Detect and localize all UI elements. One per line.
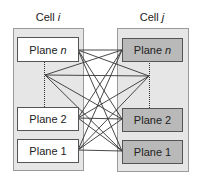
- plane-index: n: [61, 44, 67, 56]
- plane-label: Plane: [29, 44, 57, 56]
- plane-label: Plane: [29, 145, 57, 157]
- plane-index: 1: [165, 146, 171, 158]
- plane-label: Plane: [29, 113, 57, 125]
- plane-index: 2: [61, 113, 67, 125]
- plane-index: n: [165, 44, 171, 56]
- cell-j-plane-n: Planen: [122, 38, 183, 62]
- plane-label: Plane: [134, 44, 162, 56]
- cell-j-plane-1: Plane1: [122, 140, 183, 164]
- plane-label: Plane: [134, 114, 162, 126]
- cell-j-plane-2: Plane2: [122, 108, 183, 132]
- plane-index: 2: [165, 114, 171, 126]
- cell-i-plane-1: Plane1: [17, 139, 79, 163]
- plane-label: Plane: [134, 146, 162, 158]
- cell-i-plane-2: Plane2: [17, 107, 79, 131]
- cell-i-plane-n: Planen: [17, 37, 79, 62]
- plane-index: 1: [61, 145, 67, 157]
